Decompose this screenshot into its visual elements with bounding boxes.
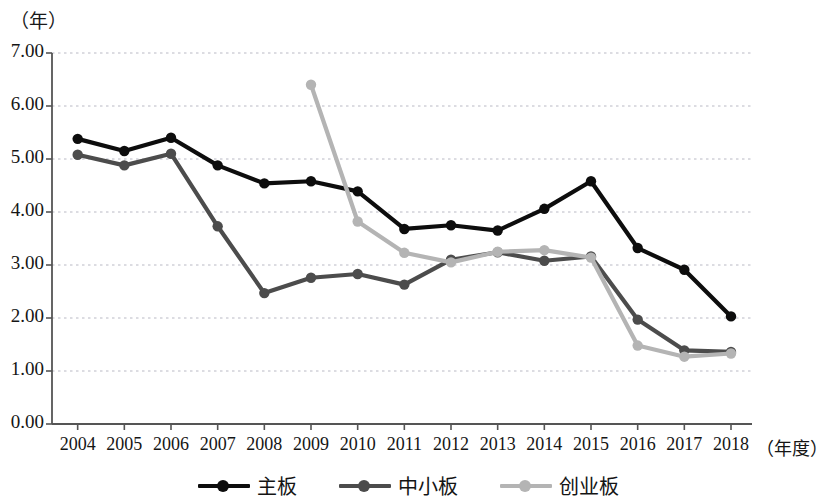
x-tick-label: 2015 bbox=[573, 434, 609, 455]
data-point-marker bbox=[446, 220, 456, 230]
data-point-marker bbox=[399, 279, 409, 289]
x-tick-label: 2012 bbox=[433, 434, 469, 455]
data-point-marker bbox=[259, 178, 269, 188]
x-tick-label: 2006 bbox=[153, 434, 189, 455]
data-point-marker bbox=[259, 288, 269, 298]
y-tick-label: 5.00 bbox=[0, 146, 44, 168]
data-point-marker bbox=[492, 225, 502, 235]
legend-item-0[interactable]: 主板 bbox=[198, 471, 297, 500]
data-point-marker bbox=[632, 314, 642, 324]
data-point-marker bbox=[119, 160, 129, 170]
data-point-marker bbox=[352, 216, 362, 226]
y-tick-label: 2.00 bbox=[0, 305, 44, 327]
x-tick-label: 2011 bbox=[387, 434, 422, 455]
data-point-marker bbox=[72, 150, 82, 160]
legend-item-1[interactable]: 中小板 bbox=[339, 471, 458, 500]
legend-label: 主板 bbox=[257, 471, 297, 500]
data-point-marker bbox=[632, 243, 642, 253]
x-tick-label: 2013 bbox=[480, 434, 516, 455]
legend-marker-icon bbox=[500, 479, 552, 493]
data-point-marker bbox=[306, 80, 316, 90]
legend-marker-icon bbox=[339, 479, 391, 493]
x-tick-label: 2010 bbox=[340, 434, 376, 455]
data-point-marker bbox=[399, 224, 409, 234]
data-point-marker bbox=[72, 134, 82, 144]
x-tick-label: 2014 bbox=[526, 434, 562, 455]
data-point-marker bbox=[446, 257, 456, 267]
data-point-marker bbox=[586, 176, 596, 186]
data-point-marker bbox=[352, 269, 362, 279]
x-tick-label: 2016 bbox=[620, 434, 656, 455]
data-point-marker bbox=[726, 311, 736, 321]
y-tick-label: 6.00 bbox=[0, 93, 44, 115]
x-tick-label: 2007 bbox=[200, 434, 236, 455]
data-point-marker bbox=[166, 133, 176, 143]
data-point-marker bbox=[632, 340, 642, 350]
data-point-marker bbox=[119, 146, 129, 156]
data-point-marker bbox=[679, 351, 689, 361]
data-point-marker bbox=[352, 186, 362, 196]
data-point-marker bbox=[306, 273, 316, 283]
x-tick-label: 2004 bbox=[60, 434, 96, 455]
data-point-marker bbox=[166, 149, 176, 159]
data-point-marker bbox=[399, 248, 409, 258]
data-point-marker bbox=[539, 204, 549, 214]
x-axis-unit-label: （年度） bbox=[756, 434, 821, 460]
data-point-marker bbox=[212, 221, 222, 231]
data-point-marker bbox=[539, 245, 549, 255]
data-point-marker bbox=[679, 265, 689, 275]
data-point-marker bbox=[492, 247, 502, 257]
legend-marker-icon bbox=[198, 479, 250, 493]
y-tick-label: 1.00 bbox=[0, 358, 44, 380]
chart-legend: 主板中小板创业板 bbox=[0, 468, 816, 503]
data-point-marker bbox=[306, 176, 316, 186]
y-tick-label: 0.00 bbox=[0, 411, 44, 433]
data-point-marker bbox=[212, 160, 222, 170]
x-tick-label: 2005 bbox=[106, 434, 142, 455]
data-point-marker bbox=[726, 348, 736, 358]
x-tick-label: 2017 bbox=[666, 434, 702, 455]
data-point-marker bbox=[586, 252, 596, 262]
y-tick-label: 4.00 bbox=[0, 199, 44, 221]
x-tick-label: 2009 bbox=[293, 434, 329, 455]
legend-label: 创业板 bbox=[559, 471, 619, 500]
y-tick-label: 7.00 bbox=[0, 40, 44, 62]
y-tick-label: 3.00 bbox=[0, 252, 44, 274]
legend-item-2[interactable]: 创业板 bbox=[500, 471, 619, 500]
x-tick-label: 2008 bbox=[246, 434, 282, 455]
data-point-marker bbox=[539, 256, 549, 266]
legend-label: 中小板 bbox=[398, 471, 458, 500]
x-tick-label: 2018 bbox=[713, 434, 749, 455]
